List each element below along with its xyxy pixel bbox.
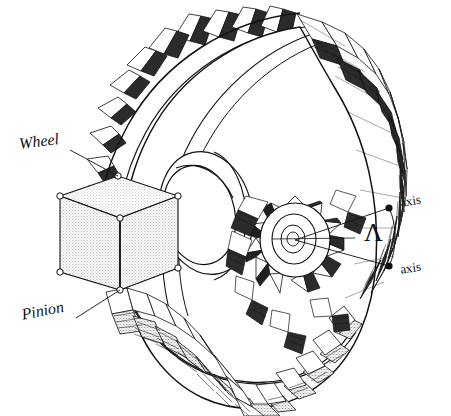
axis-endpoint-dot-top (385, 204, 392, 211)
axis-label-top: axis (399, 192, 422, 211)
diagram-canvas (0, 0, 451, 416)
bevel-gear-diagram: Wheel Pinion axis axis Λ (0, 0, 451, 416)
axis-label-bottom: axis (399, 259, 422, 278)
axis-endpoint-dot-bottom (385, 262, 392, 269)
shaft-angle-symbol: Λ (364, 218, 383, 248)
